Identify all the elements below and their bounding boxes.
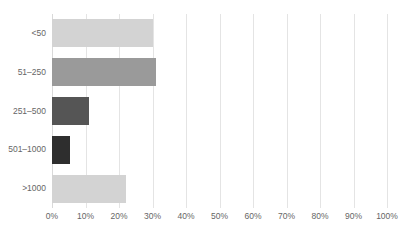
x-axis-label-40: 40%	[177, 211, 194, 221]
x-axis-label-90: 90%	[345, 211, 362, 221]
bar->1000[interactable]	[52, 175, 126, 203]
bar-501–1000[interactable]	[52, 136, 70, 164]
plot-area	[52, 14, 387, 208]
x-axis-label-0: 0%	[46, 211, 58, 221]
y-axis-category-labels: <5051–250251–500501–1000>1000	[0, 14, 46, 208]
bar-row	[52, 92, 387, 131]
bar-row	[52, 14, 387, 53]
x-axis-label-50: 50%	[211, 211, 228, 221]
bar-row	[52, 53, 387, 92]
x-axis-tick-labels: 0%10%20%30%40%50%60%70%80%90%100%	[52, 211, 387, 229]
x-axis-label-20: 20%	[110, 211, 127, 221]
bar-row	[52, 169, 387, 208]
bar-chart: <5051–250251–500501–1000>1000 0%10%20%30…	[0, 0, 405, 237]
bar-251–500[interactable]	[52, 97, 89, 125]
x-axis-label-60: 60%	[244, 211, 261, 221]
bar-row	[52, 130, 387, 169]
y-axis-label-251–500: 251–500	[13, 92, 46, 131]
x-axis-label-10: 10%	[77, 211, 94, 221]
x-axis-label-70: 70%	[278, 211, 295, 221]
y-axis-label-<50: <50	[32, 14, 46, 53]
x-axis-label-100: 100%	[376, 211, 398, 221]
y-axis-label-501–1000: 501–1000	[8, 130, 46, 169]
bar-<50[interactable]	[52, 19, 153, 47]
y-axis-label-51–250: 51–250	[18, 53, 46, 92]
x-axis-label-80: 80%	[311, 211, 328, 221]
gridline-100	[387, 14, 388, 208]
bar-51–250[interactable]	[52, 58, 156, 86]
y-axis-label->1000: >1000	[22, 169, 46, 208]
x-axis-label-30: 30%	[144, 211, 161, 221]
